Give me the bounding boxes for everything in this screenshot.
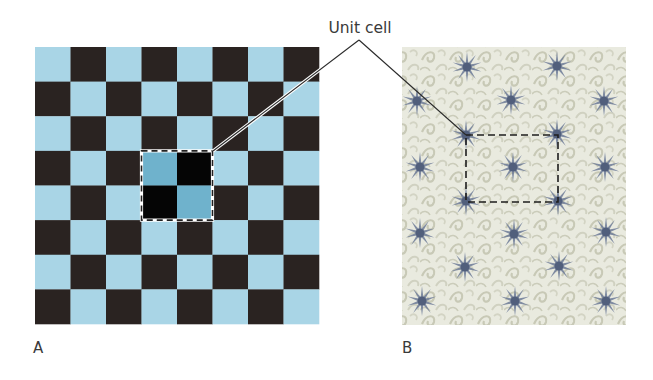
checker-cell <box>106 186 142 221</box>
checker-cell <box>177 220 213 255</box>
checker-cell <box>248 47 284 82</box>
checker-cell <box>284 47 320 82</box>
checker-cell <box>213 255 249 290</box>
checker-cell <box>35 82 71 117</box>
checker-cell <box>35 220 71 255</box>
checker-cell <box>248 255 284 290</box>
panel-a-checkerboard <box>35 47 319 324</box>
checker-cell <box>213 82 249 117</box>
panel-a-label: A <box>33 339 44 357</box>
checker-cell <box>35 255 71 290</box>
checker-cell <box>248 289 284 324</box>
checker-cell <box>177 116 213 151</box>
checker-cell <box>142 289 178 324</box>
checker-cell <box>284 220 320 255</box>
panel-b-label: B <box>402 339 412 357</box>
checker-cell <box>106 116 142 151</box>
checker-cell <box>142 220 178 255</box>
checker-cell <box>142 116 178 151</box>
checker-cell <box>213 47 249 82</box>
checker-cell <box>71 82 107 117</box>
checker-cell <box>142 186 178 221</box>
checker-cell <box>106 255 142 290</box>
checker-cell <box>213 151 249 186</box>
checker-cell <box>35 151 71 186</box>
checker-cell <box>177 151 213 186</box>
wallpaper-swirls <box>402 47 626 325</box>
unit-cell-figure: Unit cell A B <box>0 0 653 380</box>
checker-cell <box>71 186 107 221</box>
checker-cell <box>248 220 284 255</box>
checker-cell <box>142 82 178 117</box>
checker-cell <box>284 289 320 324</box>
checker-cell <box>177 255 213 290</box>
checker-cell <box>106 82 142 117</box>
checker-cell <box>71 151 107 186</box>
unit-cell-label: Unit cell <box>328 19 391 37</box>
checker-cell <box>106 151 142 186</box>
checker-cell <box>71 47 107 82</box>
checker-cell <box>35 116 71 151</box>
checker-cell <box>248 151 284 186</box>
checker-cell <box>142 151 178 186</box>
checker-cell <box>177 186 213 221</box>
checker-cell <box>35 47 71 82</box>
checker-cell <box>284 186 320 221</box>
checker-cell <box>35 289 71 324</box>
panel-b-wallpaper <box>402 47 626 325</box>
checker-cell <box>71 255 107 290</box>
checker-cell <box>177 82 213 117</box>
checker-cell <box>213 289 249 324</box>
checker-cell <box>284 151 320 186</box>
checker-cell <box>71 116 107 151</box>
checker-cell <box>106 289 142 324</box>
checker-cell <box>213 186 249 221</box>
checker-cell <box>213 220 249 255</box>
checker-cell <box>71 220 107 255</box>
checker-cell <box>35 186 71 221</box>
checker-cell <box>106 47 142 82</box>
checker-cell <box>284 82 320 117</box>
checker-cell <box>71 289 107 324</box>
checker-cell <box>142 255 178 290</box>
checker-cell <box>177 47 213 82</box>
checker-cell <box>248 186 284 221</box>
checker-cell <box>106 220 142 255</box>
checker-cell <box>142 47 178 82</box>
checker-cell <box>284 116 320 151</box>
checker-cell <box>177 289 213 324</box>
checker-cell <box>284 255 320 290</box>
